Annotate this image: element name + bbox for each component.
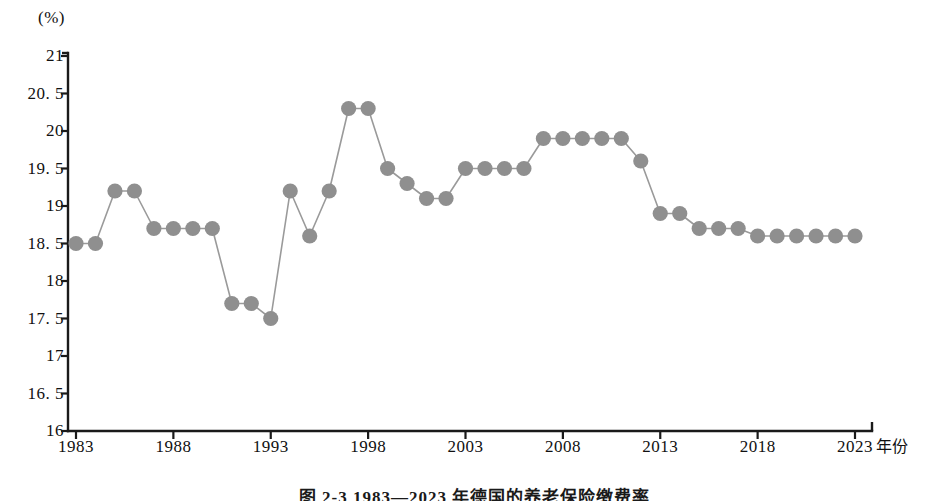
x-axis-tick-label: 1998 bbox=[338, 437, 398, 456]
figure-container: (%) 2120. 52019. 51918. 51817. 51716. 51… bbox=[0, 0, 949, 501]
figure-caption: 图 2-3 1983—2023 年德国的养老保险缴费率 bbox=[0, 483, 949, 501]
x-axis-tick-label: 2008 bbox=[533, 437, 593, 456]
x-axis-tick-label: 1988 bbox=[143, 437, 203, 456]
x-axis-tick-label: 2013 bbox=[630, 437, 690, 456]
x-axis-tick-label: 1983 bbox=[46, 437, 106, 456]
x-axis-tick-label: 1993 bbox=[241, 437, 301, 456]
x-axis-tick-label: 2003 bbox=[436, 437, 496, 456]
x-axis-tick-label: 2018 bbox=[728, 437, 788, 456]
x-axis-title: 年份 bbox=[876, 437, 908, 456]
x-axis-tick-labels: 198319881993199820032008201320182023 bbox=[0, 0, 949, 470]
